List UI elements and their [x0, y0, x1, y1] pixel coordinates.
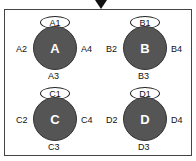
node-a: A1 A A2 A4 A3	[6, 13, 104, 85]
node-b: B1 B B2 B4 B3	[96, 13, 194, 85]
node-a-left-label: A2	[16, 44, 27, 54]
node-a-right-label: A4	[81, 44, 92, 54]
node-d-circle: D	[123, 97, 167, 141]
down-arrow-icon	[95, 0, 107, 9]
node-d: D1 D D2 D4 D3	[96, 84, 194, 156]
node-b-circle: B	[123, 26, 167, 70]
node-c: C1 C C2 C4 C3	[6, 84, 104, 156]
node-c-right-label: C4	[81, 115, 93, 125]
node-b-right-label: B4	[171, 44, 182, 54]
node-c-bottom-label: C3	[48, 142, 60, 152]
node-a-circle: A	[33, 26, 77, 70]
node-d-bottom-label: D3	[138, 142, 150, 152]
node-b-bottom-label: B3	[138, 71, 149, 81]
node-d-left-label: D2	[106, 115, 118, 125]
node-a-bottom-label: A3	[48, 71, 59, 81]
node-d-right-label: D4	[171, 115, 183, 125]
node-c-left-label: C2	[16, 115, 28, 125]
node-b-left-label: B2	[106, 44, 117, 54]
node-c-circle: C	[33, 97, 77, 141]
